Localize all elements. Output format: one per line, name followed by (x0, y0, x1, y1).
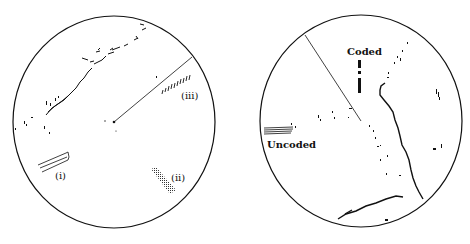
uncoded-echo (264, 127, 293, 134)
left-center-dot (113, 121, 116, 124)
right-scatter-echoes (291, 42, 442, 221)
coded-echo (358, 60, 361, 93)
radar-diagram: (iii) (i) (ii) Coded (0, 0, 470, 244)
left-scatter-echoes (15, 76, 157, 134)
label-coded: Coded (347, 46, 382, 57)
label-ii: (ii) (171, 172, 185, 183)
echo-i-outlined (38, 152, 69, 172)
label-iii: (iii) (181, 90, 198, 101)
label-i: (i) (55, 170, 66, 181)
left-ppi-display: (iii) (i) (ii) (13, 16, 215, 228)
left-coast-echoes (46, 24, 146, 115)
right-coastline (338, 83, 423, 219)
right-ppi-display: Coded Uncoded (260, 15, 462, 227)
label-uncoded: Uncoded (267, 139, 316, 150)
